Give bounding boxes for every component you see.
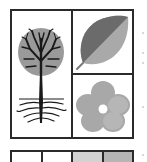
strip-cell-4	[104, 152, 133, 162]
strip-cell-1	[12, 152, 43, 162]
edge-mark	[142, 154, 144, 156]
tree-panel	[12, 11, 71, 137]
edge-mark	[142, 62, 144, 64]
edge-mark	[142, 32, 144, 34]
edge-mark	[142, 106, 144, 108]
color-strip	[10, 150, 134, 162]
edge-marks	[140, 0, 147, 162]
flower-icon	[73, 75, 132, 137]
leaf-panel	[73, 11, 132, 73]
strip-cell-2	[43, 152, 74, 162]
flower-panel	[73, 75, 132, 137]
tree-icon	[12, 11, 71, 137]
nature-diagram	[0, 0, 147, 162]
strip-cell-3	[73, 152, 104, 162]
edge-mark	[142, 52, 144, 54]
leaf-icon	[73, 11, 132, 73]
